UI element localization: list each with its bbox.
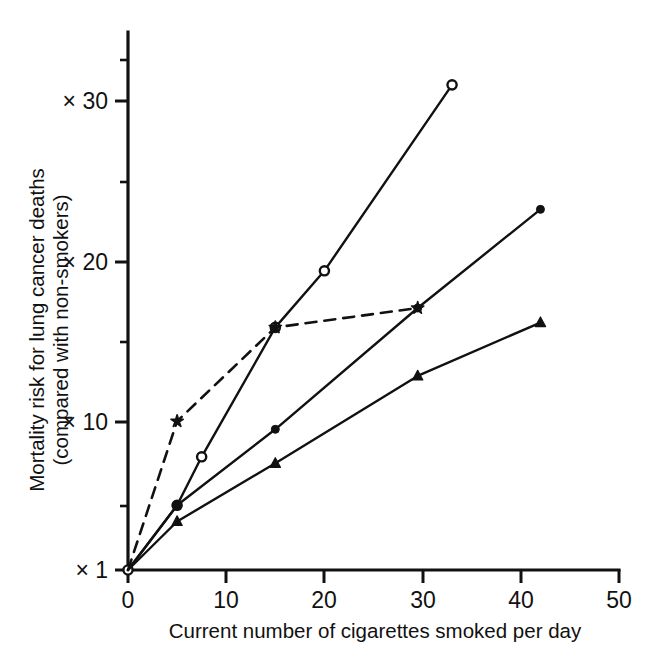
x-tick-label-0: 0 bbox=[122, 587, 135, 613]
x-tick-label-50: 50 bbox=[606, 587, 632, 613]
x-tick-label-40: 40 bbox=[508, 587, 534, 613]
series-open-circle-point-4 bbox=[320, 266, 329, 275]
x-tick-label-10: 10 bbox=[213, 587, 239, 613]
series-filled-circle-point-2 bbox=[271, 425, 279, 433]
y-tick-label-1: × 1 bbox=[75, 557, 108, 583]
lung-cancer-mortality-risk-chart: × 1 × 10 × 20 × 30 0 10 20 30 40 50 Curr… bbox=[0, 0, 645, 660]
chart-figure: × 1 × 10 × 20 × 30 0 10 20 30 40 50 Curr… bbox=[0, 0, 645, 660]
y-axis-title-line2: (compared with non-smokers) bbox=[49, 194, 72, 465]
y-tick-label-30: × 30 bbox=[63, 88, 108, 114]
series-open-circle-point-5 bbox=[447, 80, 456, 89]
x-axis-title: Current number of cigarettes smoked per … bbox=[169, 619, 582, 642]
series-filled-circle-point-4 bbox=[536, 205, 544, 213]
x-tick-label-20: 20 bbox=[311, 587, 337, 613]
x-tick-label-30: 30 bbox=[410, 587, 436, 613]
y-axis-title-line1: Mortality risk for lung cancer deaths bbox=[25, 168, 48, 492]
series-open-circle-point-2 bbox=[197, 452, 206, 461]
series-filled-circle-point-1 bbox=[173, 501, 181, 509]
